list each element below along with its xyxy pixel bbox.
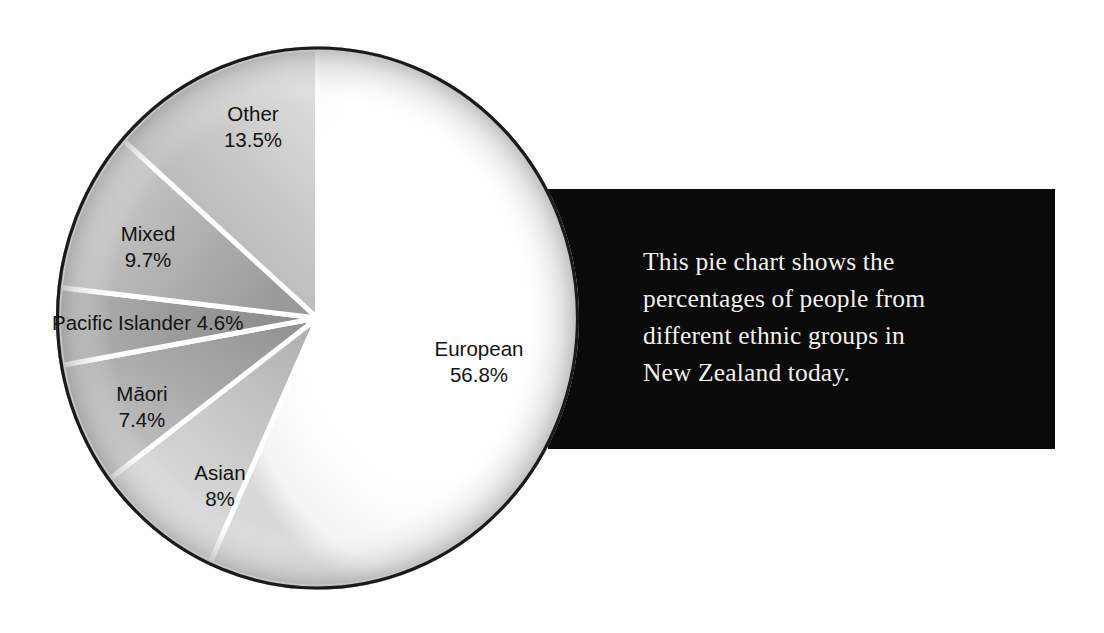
pie-chart-figure: This pie chart shows the percentages of … — [0, 0, 1104, 633]
pie-chart: European 56.8% Asian 8% Māori 7.4% Pacif… — [0, 0, 640, 633]
pie-slices — [58, 49, 576, 587]
caption-text: This pie chart shows the percentages of … — [643, 243, 973, 391]
pie-chart-svg — [0, 0, 640, 633]
